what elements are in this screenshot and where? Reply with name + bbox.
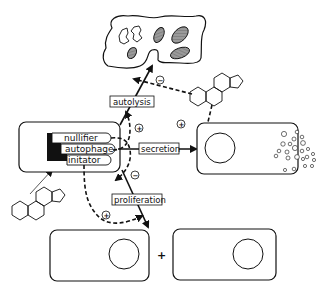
svg-text:−: − bbox=[133, 172, 139, 180]
diagram-canvas: nullifier autophage initator autolysis −… bbox=[0, 0, 325, 293]
autolysis-label: autolysis bbox=[113, 97, 151, 107]
steroid-molecule-bottom bbox=[12, 187, 65, 220]
gene-label: nullifier bbox=[64, 133, 98, 143]
secreting-cell bbox=[197, 123, 298, 174]
lysed-cell bbox=[103, 16, 205, 69]
gene-label: initator bbox=[68, 155, 101, 165]
autolysis-arrow bbox=[120, 66, 152, 125]
gene-autophage: autophage bbox=[61, 144, 115, 154]
svg-text:+: + bbox=[104, 212, 110, 220]
gene-initator: initator bbox=[67, 155, 111, 165]
gene-label: autophage bbox=[65, 144, 114, 154]
steroid-molecule-top bbox=[190, 73, 243, 106]
proliferation-label: proliferation bbox=[114, 195, 166, 205]
daughter-cell-right bbox=[173, 229, 276, 280]
daughter-cell-left bbox=[50, 230, 149, 281]
secretion-label: secretion bbox=[141, 144, 180, 154]
svg-text:+: + bbox=[137, 125, 143, 133]
plus-operator: + bbox=[157, 249, 166, 262]
svg-text:−: − bbox=[158, 77, 164, 85]
gene-nullifier: nullifier bbox=[52, 133, 111, 143]
svg-text:+: + bbox=[179, 121, 185, 129]
